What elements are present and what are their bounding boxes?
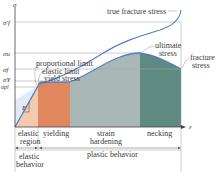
region-necking-fill xyxy=(140,53,181,127)
modulus-label: E xyxy=(21,104,27,112)
sigma-ultimate-label: σu xyxy=(3,50,10,58)
behavior-elastic-line2: behavior xyxy=(16,160,44,169)
elastic-arrow-left-icon xyxy=(15,147,18,149)
stress-strain-diagram: E σ ε σ'f σu σf σY σpl true fracture str… xyxy=(0,0,217,172)
fracture-stress-label-line2: stress xyxy=(192,61,210,70)
x-axis-arrow-icon xyxy=(181,125,186,129)
sigma-proportional-label: σpl xyxy=(1,84,9,90)
plastic-arrow-left-icon xyxy=(39,147,42,149)
x-axis-label: ε xyxy=(189,123,192,131)
region-yielding-fill xyxy=(38,82,70,127)
region-labels: elastic region yielding strain hardening… xyxy=(18,129,172,146)
region-yielding-label: yielding xyxy=(43,129,69,138)
sigma-fracture-label: σf xyxy=(3,66,9,74)
yield-stress-label: yield stress xyxy=(44,74,80,83)
elastic-arrow-right-icon xyxy=(35,147,38,149)
true-fracture-stress-label: true fracture stress xyxy=(107,7,166,16)
behavior-plastic-label: plastic behavior xyxy=(87,150,138,159)
sigma-true-fracture-label: σ'f xyxy=(3,19,11,27)
y-axis-label: σ xyxy=(13,1,17,9)
region-elastic-line2: region xyxy=(20,137,40,146)
sigma-yield-label: σY xyxy=(3,76,11,84)
plastic-arrow-right-icon xyxy=(178,147,181,149)
region-necking-label: necking xyxy=(147,129,172,138)
behavior-labels: elastic behavior plastic behavior xyxy=(16,150,138,169)
region-hardening-line2: hardening xyxy=(90,137,122,146)
stress-level-labels: σ'f σu σf σY σpl xyxy=(1,19,11,90)
ultimate-stress-label-line2: stress xyxy=(159,49,177,58)
